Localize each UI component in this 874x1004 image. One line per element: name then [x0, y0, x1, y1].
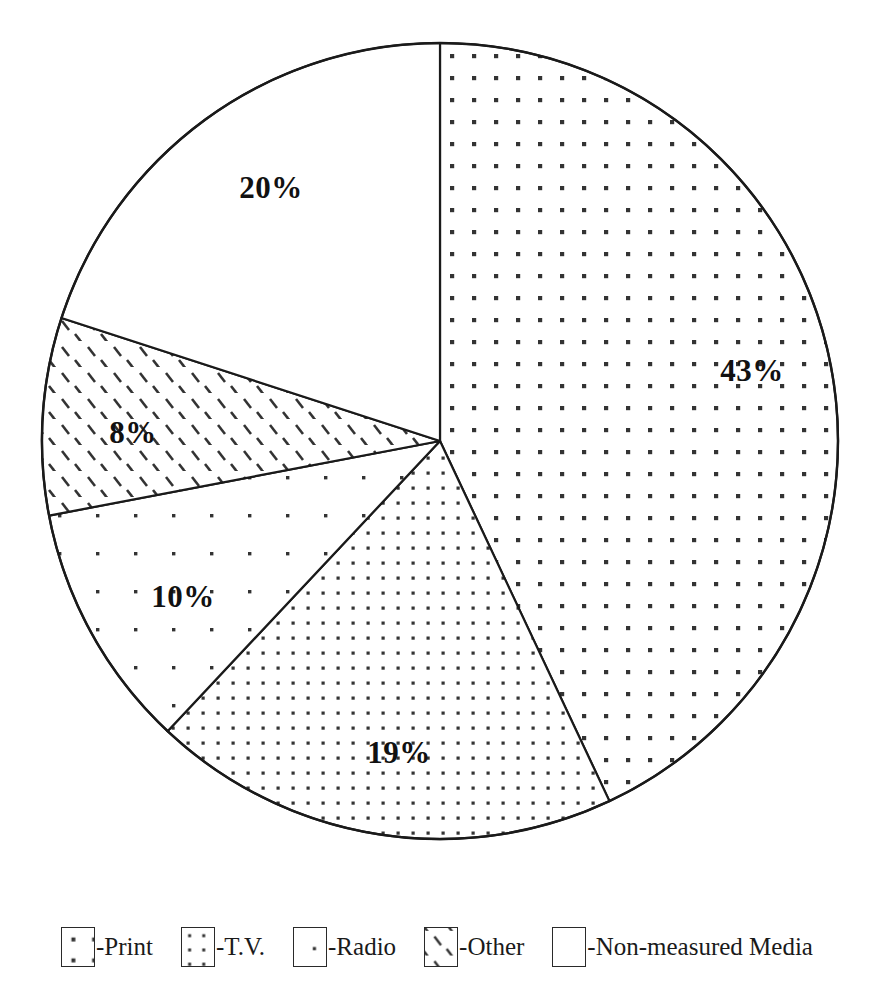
pie-label-print: 43%	[720, 353, 784, 388]
pie-label-tv: 19%	[367, 735, 431, 770]
legend-swatch-other-icon	[424, 927, 458, 967]
pie-chart-svg: 43% 19% 10% 8% 20%	[0, 0, 874, 880]
legend-item-print[interactable]: -Print	[61, 927, 153, 967]
legend-item-radio[interactable]: -Radio	[293, 927, 396, 967]
pie-label-radio: 10%	[151, 579, 215, 614]
legend-label-non-measured-media: -Non-measured Media	[587, 934, 813, 961]
chart-legend: -Print -T.V. -Radio	[0, 916, 874, 978]
legend-item-other[interactable]: -Other	[424, 927, 524, 967]
legend-label-radio: -Radio	[328, 934, 396, 961]
legend-swatch-print-icon	[61, 927, 95, 967]
pie-chart-figure: 43% 19% 10% 8% 20% -Print -T.V.	[0, 0, 874, 1004]
pie-label-non-measured-media: 20%	[239, 170, 303, 205]
legend-label-other: -Other	[459, 934, 524, 961]
pie-label-other: 8%	[109, 415, 157, 450]
legend-swatch-tv-icon	[181, 927, 215, 967]
pie-chart-canvas: 43% 19% 10% 8% 20%	[0, 0, 874, 880]
legend-swatch-radio-icon	[293, 927, 327, 967]
legend-item-non-measured-media[interactable]: -Non-measured Media	[552, 927, 813, 967]
legend-swatch-non-measured-media-icon	[552, 927, 586, 967]
legend-label-print: -Print	[96, 934, 153, 961]
legend-item-tv[interactable]: -T.V.	[181, 927, 265, 967]
legend-label-tv: -T.V.	[216, 934, 265, 961]
